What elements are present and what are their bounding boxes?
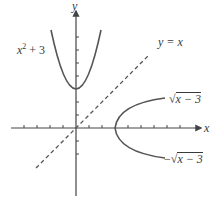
radical-sign: √ bbox=[169, 92, 176, 106]
y-axis-label: y bbox=[72, 0, 77, 12]
sqrt-upper-curve bbox=[115, 98, 165, 128]
sqrt-neg-label: −√x − 3 bbox=[164, 152, 203, 165]
identity-label: y = x bbox=[158, 36, 183, 48]
neg-sign: − bbox=[164, 152, 171, 166]
sqrt-neg-inner: x − 3 bbox=[177, 152, 202, 165]
sqrt-lower-curve bbox=[115, 128, 165, 158]
identity-line bbox=[36, 56, 148, 168]
sqrt-pos-label: √x − 3 bbox=[169, 92, 201, 105]
sqrt-pos-inner: x − 3 bbox=[176, 92, 201, 105]
parabola-label-rest: + 3 bbox=[26, 43, 45, 57]
x-axis-label: x bbox=[204, 122, 209, 134]
parabola-label: x2 + 3 bbox=[17, 43, 45, 56]
